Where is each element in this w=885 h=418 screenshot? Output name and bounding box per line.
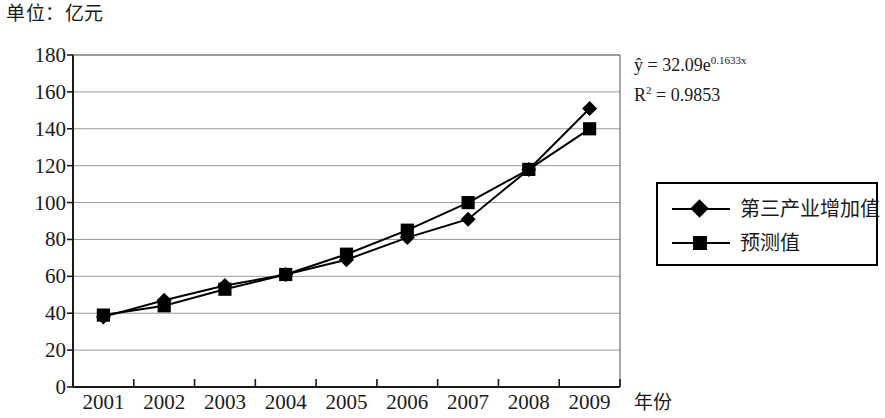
data-point-forecast-2001 <box>97 309 110 322</box>
chart-container: 单位：亿元 ŷ = 32.09e0.1633x R2 = 0.9853 1801… <box>0 0 885 418</box>
square-marker-icon <box>672 232 730 254</box>
data-point-forecast-2006 <box>401 224 414 237</box>
series-line-actual <box>103 109 589 317</box>
data-point-forecast-2009 <box>583 122 596 135</box>
legend-item-actual: 第三产业增加值 <box>672 194 880 224</box>
data-point-forecast-2008 <box>522 163 535 176</box>
diamond-marker-icon <box>672 198 730 220</box>
chart-legend: 第三产业增加值 预测值 <box>656 182 878 266</box>
data-point-forecast-2003 <box>218 283 231 296</box>
data-point-forecast-2002 <box>158 299 171 312</box>
data-point-forecast-2004 <box>279 268 292 281</box>
data-point-forecast-2007 <box>462 196 475 209</box>
data-point-forecast-2005 <box>340 248 353 261</box>
series-line-forecast <box>103 129 589 315</box>
legend-label-forecast: 预测值 <box>740 232 800 254</box>
legend-label-actual: 第三产业增加值 <box>740 198 880 220</box>
legend-item-forecast: 预测值 <box>672 228 800 258</box>
